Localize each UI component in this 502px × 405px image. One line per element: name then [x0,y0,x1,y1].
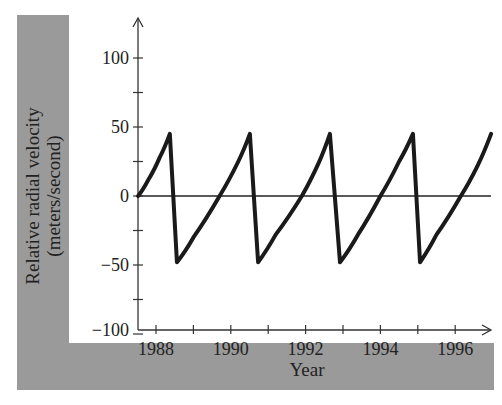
x-tick-label: 1996 [437,339,473,359]
y-tick-label: 0 [120,186,129,206]
x-tick-label: 1992 [288,339,324,359]
x-tick-label: 1988 [138,339,174,359]
y-tick-label: 50 [111,117,129,137]
x-tick-label: 1990 [213,339,249,359]
y-tick-label: 100 [102,48,129,68]
y-tick-label: −100 [92,320,129,340]
y-tick-label: −50 [101,255,129,275]
chart-plot: −100−5005010019881990199219941996 [0,0,502,405]
velocity-curve [138,134,491,262]
x-tick-label: 1994 [362,339,398,359]
